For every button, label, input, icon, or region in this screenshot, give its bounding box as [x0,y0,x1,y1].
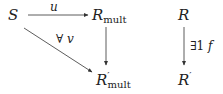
label-u: u [50,1,58,13]
label-v-text: v [67,32,74,46]
node-R-prime-mult: R′mult [96,68,131,92]
node-S-base: S [8,6,18,24]
node-R-prime-mult-sub: mult [108,79,131,90]
label-exists-unique-f: ∃1 f [190,40,212,52]
node-R-mult: Rmult [92,8,126,27]
label-forall-v: ∀ v [56,33,74,45]
node-R: R [178,8,189,23]
exists-unique-symbol: ∃1 [190,39,204,53]
node-R-prime-mult-base: R [96,71,107,89]
node-R-base: R [178,6,189,24]
node-R-prime: R′ [178,68,190,88]
node-S: S [8,8,18,23]
node-R-mult-base: R [92,6,103,24]
node-R-prime-prime: ′ [189,70,191,81]
label-f-text: f [208,39,212,53]
node-R-prime-base: R [178,71,189,89]
forall-symbol: ∀ [56,32,63,46]
node-R-mult-sub: mult [103,14,126,25]
label-u-text: u [50,0,58,14]
